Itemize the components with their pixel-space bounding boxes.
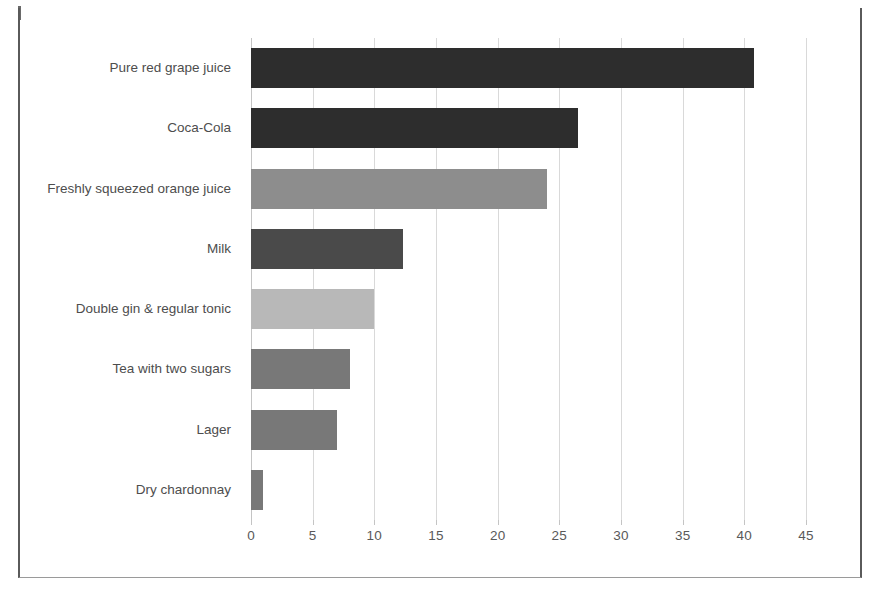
tick-mark-5 bbox=[313, 520, 314, 525]
gridline-45 bbox=[806, 38, 807, 520]
bar-pure-red-grape-juice[interactable] bbox=[251, 48, 754, 88]
tick-label-20: 20 bbox=[478, 528, 518, 543]
tick-mark-0 bbox=[251, 520, 252, 525]
tick-mark-20 bbox=[498, 520, 499, 525]
category-label-coca-cola: Coca-Cola bbox=[167, 98, 231, 158]
tick-label-0: 0 bbox=[231, 528, 271, 543]
bar-row bbox=[251, 339, 806, 399]
tick-label-35: 35 bbox=[663, 528, 703, 543]
bar-dry-chardonnay[interactable] bbox=[251, 470, 263, 510]
bar-lager[interactable] bbox=[251, 410, 337, 450]
tick-mark-10 bbox=[374, 520, 375, 525]
tick-label-30: 30 bbox=[601, 528, 641, 543]
bar-row bbox=[251, 400, 806, 460]
category-label-milk: Milk bbox=[207, 219, 231, 279]
tick-label-5: 5 bbox=[293, 528, 333, 543]
bar-row bbox=[251, 98, 806, 158]
page-canvas: Pure red grape juiceCoca-ColaFreshly squ… bbox=[0, 0, 872, 592]
tick-mark-30 bbox=[621, 520, 622, 525]
tick-label-25: 25 bbox=[539, 528, 579, 543]
category-label-lager: Lager bbox=[196, 400, 231, 460]
tick-label-45: 45 bbox=[786, 528, 826, 543]
bar-row bbox=[251, 279, 806, 339]
tick-mark-35 bbox=[683, 520, 684, 525]
bar-double-gin-regular-tonic[interactable] bbox=[251, 289, 374, 329]
tick-label-40: 40 bbox=[724, 528, 764, 543]
plot-area bbox=[251, 38, 806, 520]
category-label-tea-with-two-sugars: Tea with two sugars bbox=[112, 339, 231, 399]
tick-label-10: 10 bbox=[354, 528, 394, 543]
bar-chart: Pure red grape juiceCoca-ColaFreshly squ… bbox=[0, 0, 872, 592]
tick-mark-40 bbox=[744, 520, 745, 525]
category-label-pure-red-grape-juice: Pure red grape juice bbox=[109, 38, 231, 98]
bar-milk[interactable] bbox=[251, 229, 403, 269]
category-label-dry-chardonnay: Dry chardonnay bbox=[136, 460, 231, 520]
bar-coca-cola[interactable] bbox=[251, 108, 578, 148]
bar-freshly-squeezed-orange-juice[interactable] bbox=[251, 169, 547, 209]
category-label-double-gin-regular-tonic: Double gin & regular tonic bbox=[76, 279, 231, 339]
bar-tea-with-two-sugars[interactable] bbox=[251, 349, 350, 389]
tick-mark-25 bbox=[559, 520, 560, 525]
category-label-freshly-squeezed-orange-juice: Freshly squeezed orange juice bbox=[47, 159, 231, 219]
tick-mark-15 bbox=[436, 520, 437, 525]
bar-row bbox=[251, 219, 806, 279]
tick-mark-45 bbox=[806, 520, 807, 525]
bar-row bbox=[251, 38, 806, 98]
category-axis-labels: Pure red grape juiceCoca-ColaFreshly squ… bbox=[0, 38, 241, 520]
tick-label-15: 15 bbox=[416, 528, 456, 543]
bar-row bbox=[251, 159, 806, 219]
bar-row bbox=[251, 460, 806, 520]
